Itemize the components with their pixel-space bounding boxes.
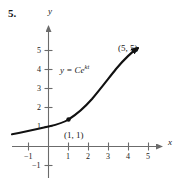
y-tick-label-3: 3: [37, 85, 41, 93]
plot-canvas: [0, 0, 178, 191]
exponential-growth-figure: 5. y x y = Cekt (1, 1) (5, 5) −1 1 2 3 4…: [0, 0, 178, 191]
y-tick-label-5: 5: [37, 47, 41, 55]
exponential-curve: [12, 48, 138, 134]
curve-equation-label: y = Cekt: [60, 64, 89, 75]
x-tick-label-5: 5: [146, 153, 150, 161]
point-label-low: (1, 1): [64, 131, 84, 140]
point-label-high: (5, 5): [118, 44, 138, 53]
x-tick-label-2: 2: [86, 153, 90, 161]
y-tick-label--1: −1: [32, 162, 41, 170]
x-tick-label-3: 3: [106, 153, 110, 161]
y-tick-label-1: 1: [37, 123, 41, 131]
x-tick-label--1: −1: [24, 153, 33, 161]
data-point-marker-1-1: [66, 117, 70, 121]
x-axis-label: x: [168, 138, 172, 147]
equation-exponent: kt: [85, 63, 90, 70]
y-axis-label: y: [48, 7, 52, 16]
x-tick-label-1: 1: [66, 153, 70, 161]
problem-number: 5.: [8, 8, 16, 19]
y-tick-label-2: 2: [37, 104, 41, 112]
x-tick-label-4: 4: [126, 153, 130, 161]
y-tick-label-4: 4: [37, 66, 41, 74]
equation-base: y = Ce: [60, 65, 85, 75]
